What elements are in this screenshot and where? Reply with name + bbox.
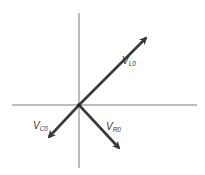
vector-label-v-c0: VC0 bbox=[33, 120, 48, 132]
vector-v-c0-arrow bbox=[49, 105, 79, 137]
vector-label-v-r0: VR0 bbox=[106, 121, 121, 133]
vector-label-v-l0: VL0 bbox=[122, 55, 136, 67]
vector-v-l0-arrow bbox=[79, 38, 146, 105]
origin-point bbox=[77, 103, 81, 107]
phasor-diagram: VL0 VC0 VR0 bbox=[0, 0, 205, 175]
